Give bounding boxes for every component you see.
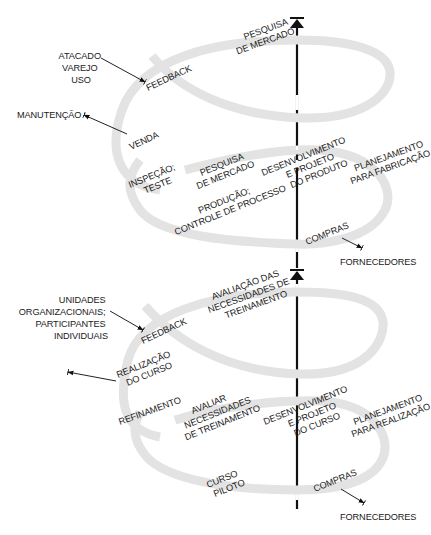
label-production: PRODUÇÃO; CONTROLE DE PROCESSO [169,173,287,237]
units-feedback-arrow-icon [110,311,143,330]
label-suppliers-top: FORNECEDORES [340,257,416,267]
label-delivery-planning: PLANEJAMENTO PARA REALIZAÇÃO [346,391,431,439]
label-pilot-course: CURSO PILOTO [205,467,246,500]
customers-feedback-arrow-icon [101,58,145,82]
top-spiral [116,18,390,268]
delivery-outward-arrow-icon [68,372,116,381]
purchasing-suppliers-bottom-arrow-icon [341,489,364,503]
label-manufacturing-planning: PLANEJAMENTO PARA FABRICAÇÃO [345,138,431,187]
label-customers: ATACADO VAREJO USO [59,51,104,85]
label-market-research-top: PESQUISA DE MERCADO [231,16,296,57]
label-organizational-units: UNIDADES ORGANIZACIONAIS; PARTICIPANTES … [19,295,108,341]
bottom-axis-arrowhead-icon [290,270,304,280]
label-needs-assessment: AVALIAÇÃO DAS NECESSIDADES DE TREINAMENT… [203,265,297,325]
label-maintenance: MANUTENÇÃO [17,110,81,120]
label-sales: VENDA [128,129,161,152]
label-course-development: DESENVOLVIMENTO E PROJETO DO CURSO [262,383,359,447]
label-suppliers-bottom: FORNECEDORES [340,512,416,522]
spiral-diagram: PESQUISA DE MERCADO FEEDBACK VENDA INSPE… [0,0,431,535]
